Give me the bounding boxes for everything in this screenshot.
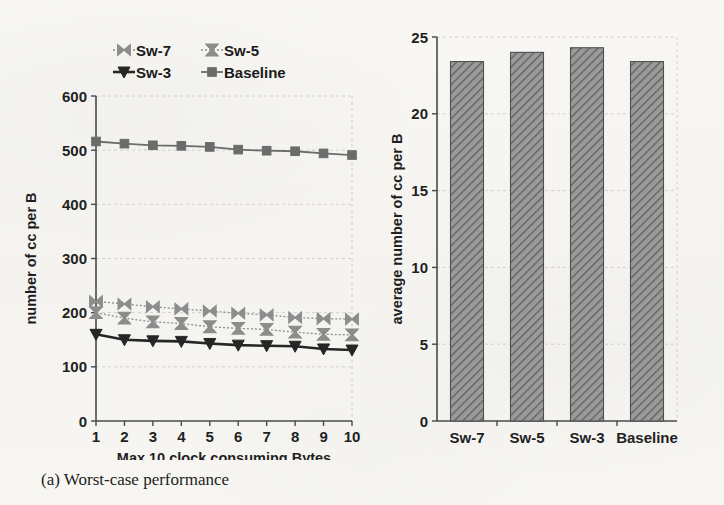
bar-category-label-Sw-3: Sw-3: [569, 429, 604, 446]
series-line-Sw-7: [96, 301, 352, 319]
marker-Baseline-2: [120, 139, 129, 148]
series-line-Sw-3: [96, 334, 352, 350]
marker-Baseline-8: [291, 147, 300, 156]
axes-group: [91, 96, 352, 426]
y-tick-label-0: 0: [420, 413, 428, 430]
category-labels-group: Sw-7Sw-5Sw-3Baseline: [449, 429, 677, 446]
legend-label-Sw-7: Sw-7: [136, 42, 171, 59]
bar-Baseline: [631, 62, 664, 421]
marker-Sw-7-10: [346, 314, 358, 324]
marker-Sw-7-7: [260, 310, 272, 320]
series-markers-Sw-7: [90, 296, 358, 324]
legend-group: Sw-7Sw-5Sw-3Baseline: [113, 42, 286, 81]
marker-Baseline-9: [319, 149, 328, 158]
y-tick-label-10: 10: [411, 259, 428, 276]
bar-category-label-Baseline: Baseline: [616, 429, 678, 446]
worst-case-chart: 010020030040050060012345678910 Sw-7Sw-5S…: [0, 0, 382, 460]
legend-label-Sw-5: Sw-5: [224, 42, 259, 59]
y-tick-label-5: 5: [420, 336, 428, 353]
y-tick-label-200: 200: [62, 304, 87, 321]
y-tick-label-600: 600: [62, 88, 87, 105]
bar-category-label-Sw-7: Sw-7: [449, 429, 484, 446]
figure-container: 010020030040050060012345678910 Sw-7Sw-5S…: [0, 0, 724, 505]
x-tick-label-7: 7: [262, 428, 270, 445]
y-tick-label-500: 500: [62, 142, 87, 159]
marker-Baseline-3: [149, 141, 158, 150]
x-tick-label-3: 3: [149, 428, 157, 445]
tick-labels-group: 0510152025: [411, 29, 428, 430]
bars-group: [451, 48, 664, 421]
marker-Sw-7-3: [147, 302, 159, 312]
subfigure-caption-a: (a) Worst-case performance: [41, 470, 229, 490]
y-tick-label-15: 15: [411, 182, 428, 199]
x-tick-label-1: 1: [92, 428, 100, 445]
x-tick-label-10: 10: [344, 428, 361, 445]
bar-category-label-Sw-5: Sw-5: [509, 429, 544, 446]
y-tick-label-20: 20: [411, 105, 428, 122]
series-line-Sw-5: [96, 313, 352, 335]
legend-marker-Sw-7: [118, 45, 130, 55]
y-tick-label-25: 25: [411, 29, 428, 46]
x-tick-label-4: 4: [177, 428, 186, 445]
legend-label-Sw-3: Sw-3: [136, 64, 171, 81]
y-tick-label-0: 0: [79, 413, 87, 430]
bar-Sw-7: [451, 62, 484, 421]
x-tick-label-8: 8: [291, 428, 299, 445]
panel-average-case: 0510152025 Sw-7Sw-5Sw-3Baseline average …: [382, 0, 724, 505]
legend-label-Baseline: Baseline: [224, 64, 286, 81]
x-tick-label-5: 5: [206, 428, 214, 445]
y-axis-title: average number of cc per B: [389, 134, 405, 325]
tick-labels-group: 010020030040050060012345678910: [62, 88, 360, 446]
legend-marker-Baseline: [208, 68, 217, 77]
y-tick-label-400: 400: [62, 196, 87, 213]
bar-Sw-3: [571, 48, 604, 421]
marker-Sw-7-5: [204, 306, 216, 316]
panel-worst-case: 010020030040050060012345678910 Sw-7Sw-5S…: [0, 0, 382, 505]
x-axis-title: Max 10 clock consuming Bytes: [117, 450, 331, 460]
average-case-chart: 0510152025 Sw-7Sw-5Sw-3Baseline average …: [382, 0, 724, 460]
bar-Sw-5: [511, 52, 544, 421]
marker-Sw-7-9: [317, 313, 329, 323]
series-group: [90, 137, 358, 356]
x-tick-label-9: 9: [319, 428, 327, 445]
y-axis-title: number of cc per B: [23, 192, 39, 324]
y-tick-label-300: 300: [62, 250, 87, 267]
series-line-Baseline: [96, 142, 352, 156]
x-tick-label-2: 2: [120, 428, 128, 445]
marker-Baseline-6: [234, 145, 243, 154]
series-markers-Sw-3: [90, 329, 358, 356]
y-tick-label-100: 100: [62, 358, 87, 375]
marker-Baseline-4: [177, 142, 186, 151]
x-tick-label-6: 6: [234, 428, 242, 445]
marker-Sw-7-8: [289, 312, 301, 322]
marker-Sw-7-6: [232, 308, 244, 318]
marker-Baseline-5: [205, 143, 214, 152]
marker-Baseline-1: [92, 137, 101, 146]
marker-Baseline-7: [262, 146, 271, 155]
marker-Sw-7-2: [118, 299, 130, 309]
marker-Baseline-10: [348, 151, 357, 160]
